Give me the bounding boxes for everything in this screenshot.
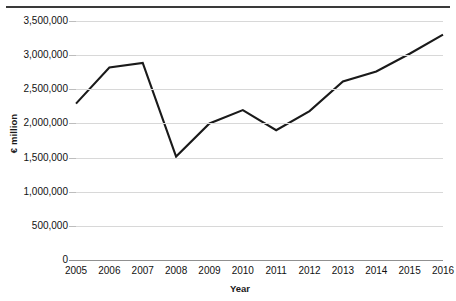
gridline xyxy=(76,158,443,159)
y-axis-tick-label: 500,000 xyxy=(0,221,68,231)
x-axis-tick-label: 2014 xyxy=(365,265,387,277)
y-axis-tick-mark xyxy=(69,158,76,159)
gridline xyxy=(76,55,443,56)
data-series-line xyxy=(76,21,443,260)
y-axis-tick-label: 1,000,000 xyxy=(0,187,68,197)
y-axis-tick-mark xyxy=(69,89,76,90)
x-axis-tick-label: 2016 xyxy=(432,265,454,277)
gridline xyxy=(76,260,443,261)
gridline xyxy=(76,192,443,193)
y-axis-tick-label: 3,500,000 xyxy=(0,16,68,26)
gridline xyxy=(76,226,443,227)
x-axis-tick-label: 2007 xyxy=(132,265,154,277)
x-axis-title: Year xyxy=(0,283,456,294)
y-axis-tick-mark xyxy=(69,123,76,124)
x-axis-tick-label: 2011 xyxy=(265,265,287,277)
y-axis-tick-mark xyxy=(69,21,76,22)
gridline xyxy=(76,89,443,90)
x-axis-tick-label: 2012 xyxy=(298,265,320,277)
x-axis-title-text: Year xyxy=(230,283,250,294)
x-axis-tick-label: 2013 xyxy=(332,265,354,277)
line-chart-figure: € million 0500,0001,000,0001,500,0002,00… xyxy=(0,0,456,301)
x-axis-tick-label: 2008 xyxy=(165,265,187,277)
y-axis-tick-label: 2,500,000 xyxy=(0,84,68,94)
x-axis-tick-label: 2006 xyxy=(98,265,120,277)
x-axis-tick-label: 2015 xyxy=(399,265,421,277)
y-axis-tick-label: 3,000,000 xyxy=(0,50,68,60)
y-axis-tick-mark xyxy=(69,55,76,56)
y-axis-tick-mark xyxy=(69,226,76,227)
x-axis-tick-label: 2005 xyxy=(65,265,87,277)
y-axis-tick-label: 2,000,000 xyxy=(0,118,68,128)
x-axis-tick-labels: 2005200620072008200920102011201220132014… xyxy=(76,265,443,281)
top-divider-rule xyxy=(6,6,450,8)
y-axis-tick-mark xyxy=(69,260,76,261)
x-axis-tick-label: 2010 xyxy=(232,265,254,277)
x-axis-tick-label: 2009 xyxy=(198,265,220,277)
series-polyline xyxy=(76,35,443,157)
y-axis-tick-label: 0 xyxy=(0,255,68,265)
plot-area xyxy=(76,21,443,260)
y-axis-tick-label: 1,500,000 xyxy=(0,153,68,163)
y-axis-tick-mark xyxy=(69,192,76,193)
gridline xyxy=(76,123,443,124)
gridline xyxy=(76,21,443,22)
y-axis-tick-labels: 0500,0001,000,0001,500,0002,000,0002,500… xyxy=(0,21,68,260)
